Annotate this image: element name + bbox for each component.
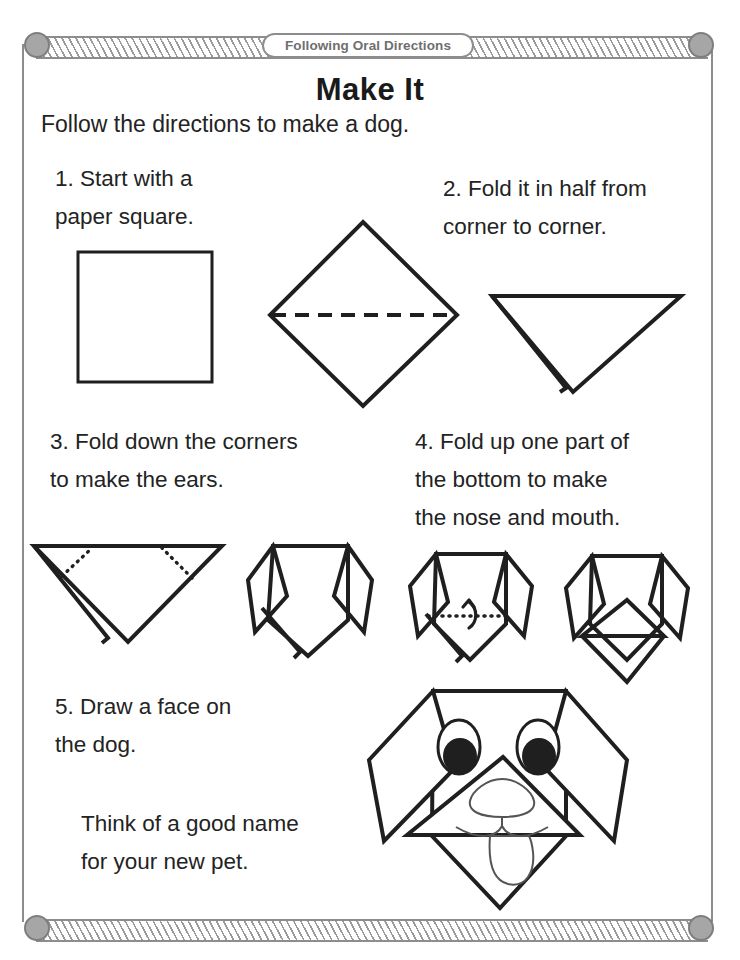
step-4-text: 4. Fold up one part of the bottom to mak… <box>415 423 629 537</box>
figure-muzzle-fold-left-ear <box>410 554 448 636</box>
figure-triangle-ear-folds-under-layer <box>34 546 108 643</box>
figure-folded-triangle-under-layer <box>492 296 566 392</box>
dog-right-ear <box>545 691 627 841</box>
frame-bolt-bottom-left <box>24 915 50 941</box>
figure-muzzle-folded-bottom-point <box>582 636 664 682</box>
figure-head-with-ears-right-ear <box>334 546 372 632</box>
frame-bolt-bottom-right <box>688 915 714 941</box>
figure-muzzle-folded-right-ear <box>650 556 688 638</box>
step-2-text: 2. Fold it in half from corner to corner… <box>443 170 647 246</box>
figure-ear-fold-line-right <box>162 548 192 578</box>
figure-finished-dog-face <box>369 691 627 908</box>
dog-left-pupil <box>443 738 477 774</box>
figure-muzzle-folded-head <box>590 556 662 660</box>
step-3-text: 3. Fold down the corners to make the ear… <box>50 423 298 499</box>
frame-bolt-top-right <box>688 32 714 58</box>
frame-bottom-band <box>36 919 708 942</box>
figure-head-with-ears-under-layer <box>262 608 300 658</box>
figure-muzzle-fold-head <box>434 554 506 660</box>
figure-paper-square <box>78 252 212 382</box>
frame-right-rule <box>711 44 713 922</box>
figure-muzzle-fold-under-layer <box>426 614 462 662</box>
step-5-text: 5. Draw a face on the dog. <box>55 688 231 764</box>
figure-muzzle-folded-triangle <box>582 600 664 636</box>
dog-mouth-left-curve <box>456 826 502 836</box>
figure-head-with-ears-left-ear <box>248 546 287 632</box>
worksheet-banner-label: Following Oral Directions <box>285 38 451 53</box>
intro-instruction: Follow the directions to make a dog. <box>41 111 409 138</box>
dog-mouth-right-curve <box>502 826 548 836</box>
figure-muzzle-folded-left-ear <box>566 556 604 638</box>
frame-bolt-top-left <box>24 32 50 58</box>
figure-triangle-ear-folds <box>34 546 222 642</box>
dog-left-ear <box>369 691 455 841</box>
dog-muzzle-triangle <box>407 757 580 835</box>
dog-right-pupil <box>522 738 556 774</box>
figure-ear-fold-line-left <box>62 548 92 576</box>
frame-left-rule <box>22 44 24 922</box>
dog-right-eye <box>517 720 559 774</box>
dog-left-eye <box>438 720 480 774</box>
step-1-text: 1. Start with a paper square. <box>55 160 194 236</box>
figure-folded-triangle <box>492 296 681 392</box>
figure-fold-direction-arrow <box>469 602 476 628</box>
dog-nose <box>470 779 534 817</box>
page-title: Make It <box>0 72 740 108</box>
worksheet-banner: Following Oral Directions <box>262 33 474 58</box>
figure-muzzle-fold-right-ear <box>494 554 532 636</box>
dog-tongue <box>490 836 534 885</box>
figure-diamond <box>270 222 457 406</box>
closing-note: Think of a good name for your new pet. <box>81 805 299 881</box>
figure-head-with-ears <box>268 546 348 656</box>
worksheet-page: Following Oral Directions Make It Follow… <box>0 0 740 960</box>
dog-head-outline <box>432 691 566 908</box>
figure-fold-direction-arrowhead <box>463 600 474 607</box>
